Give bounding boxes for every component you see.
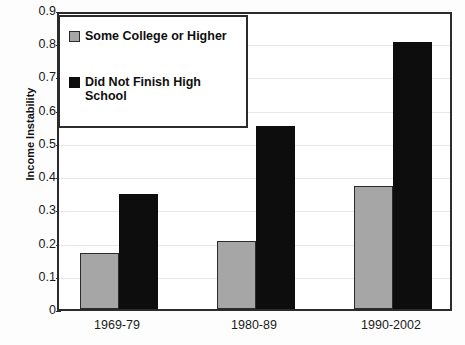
y-tick-label: 0.5	[22, 137, 56, 151]
y-tick-mark	[56, 311, 61, 312]
y-tick-label: 0.6	[22, 104, 56, 118]
bar-some-college-1969-79	[80, 253, 119, 309]
y-tick-label: 0.4	[22, 170, 56, 184]
y-tick-label: 0.8	[22, 37, 56, 51]
x-tick-label: 1969-79	[57, 318, 177, 332]
y-tick-label: 0	[22, 303, 56, 317]
legend-label: Some College or Higher	[85, 29, 227, 43]
x-tick-label: 1990-2002	[331, 318, 451, 332]
legend-label: Did Not Finish High School	[85, 75, 243, 103]
bar-some-college-1990-2002	[354, 186, 393, 309]
bar-did-not-finish-1969-79	[119, 194, 158, 309]
y-tick-label: 0.1	[22, 270, 56, 284]
legend-entry-did-not-finish: Did Not Finish High School	[69, 75, 243, 103]
gridline	[59, 145, 450, 146]
y-tick-label: 0.2	[22, 237, 56, 251]
bar-did-not-finish-1990-2002	[393, 42, 432, 309]
y-tick-label: 0.7	[22, 70, 56, 84]
chart-legend: Some College or Higher Did Not Finish Hi…	[58, 15, 248, 128]
legend-swatch-dark-icon	[69, 77, 80, 88]
bar-chart: Income Instability 00.10.20.30.40.50.60.…	[0, 0, 465, 345]
bar-some-college-1980-89	[217, 241, 256, 309]
legend-swatch-light-icon	[69, 31, 80, 42]
y-tick-label: 0.3	[22, 203, 56, 217]
gridline	[59, 178, 450, 179]
y-axis-ticks: 00.10.20.30.40.50.60.70.80.9	[14, 0, 56, 345]
x-tick-label: 1980-89	[194, 318, 314, 332]
legend-entry-some-college: Some College or Higher	[69, 29, 227, 43]
bar-did-not-finish-1980-89	[256, 126, 295, 309]
y-tick-label: 0.9	[22, 4, 56, 18]
